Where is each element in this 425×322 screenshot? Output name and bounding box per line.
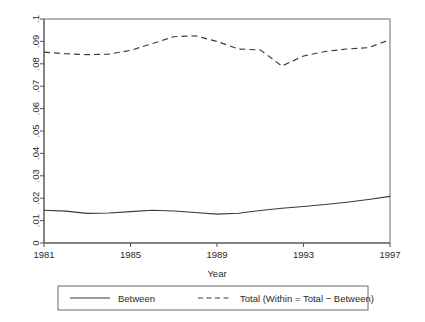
x-tick-label: 1981 [33,249,54,260]
x-tick-label: 1997 [379,249,400,260]
y-tick-label: .09 [30,35,41,48]
y-tick-label: .1 [30,15,41,23]
y-tick-label: .01 [30,214,41,227]
y-tick-label: .03 [30,169,41,182]
x-tick-label: 1985 [120,249,141,260]
chart-figure: 0.01.02.03.04.05.06.07.08.09.1 198119851… [0,0,425,322]
x-tick-label: 1989 [206,249,227,260]
y-tick-label: .08 [30,57,41,70]
legend-label-total: Total (Within = Total − Between) [240,293,374,304]
y-tick-label: .06 [30,102,41,115]
line-chart: 0.01.02.03.04.05.06.07.08.09.1 198119851… [0,0,425,322]
chart-legend: BetweenTotal (Within = Total − Between) [58,286,374,310]
legend-label-between: Between [118,293,155,304]
y-tick-label: .04 [30,147,41,160]
y-tick-label: 0 [30,240,41,245]
x-axis-title: Year [207,268,226,279]
y-tick-label: .02 [30,192,41,205]
y-tick-label: .07 [30,80,41,93]
y-tick-label: .05 [30,124,41,137]
x-tick-label: 1993 [293,249,314,260]
